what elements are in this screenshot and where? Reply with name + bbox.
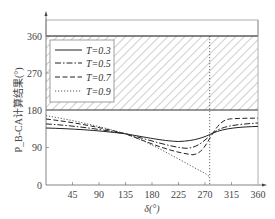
x-tick-label: 135 <box>118 189 133 200</box>
legend: T=0.3 T=0.5 T=0.7 T=0.9 <box>50 40 114 102</box>
x-tick-label: 90 <box>94 189 104 200</box>
y-tick-label: 270 <box>27 68 42 79</box>
y-tick-label: 180 <box>27 105 42 116</box>
x-tick-label: 360 <box>251 189 266 200</box>
x-tick-label: 270 <box>198 189 213 200</box>
x-tick-label: 315 <box>224 189 239 200</box>
series-t05 <box>46 123 258 148</box>
legend-label: T=0.3 <box>86 45 111 56</box>
x-tick-label: 180 <box>145 189 160 200</box>
x-tick-label: 45 <box>68 189 78 200</box>
series-t07 <box>46 118 258 155</box>
x-tick-label: 225 <box>171 189 186 200</box>
series-t09 <box>46 116 210 177</box>
plot-frame-top <box>46 20 258 36</box>
legend-label: T=0.7 <box>86 72 112 83</box>
x-axis-title: δ(°) <box>144 203 160 215</box>
legend-label: T=0.9 <box>86 86 111 97</box>
y-axis-title: P_B-CA计算结果(°) <box>12 67 25 152</box>
chart-canvas: 45 90 135 180 225 270 315 360 0 90 180 2… <box>0 0 275 219</box>
y-tick-label: 90 <box>32 142 42 153</box>
series-t03 <box>46 126 258 141</box>
legend-label: T=0.5 <box>86 58 111 69</box>
y-axis-arrow-icon <box>45 11 48 16</box>
x-axis-arrow-icon <box>262 184 267 187</box>
y-tick-label: 0 <box>37 180 42 191</box>
x-ticks <box>73 182 232 185</box>
y-tick-label: 360 <box>27 31 42 42</box>
